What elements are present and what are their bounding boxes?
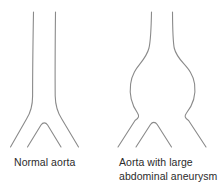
aneurysmal-aorta-caption-line-2: abdominal aneurysm	[119, 170, 218, 182]
panel-aneurysmal-aorta: Aorta with large abdominal aneurysm	[118, 12, 218, 182]
normal-aorta-right-wall	[55, 12, 78, 147]
normal-aorta-caption: Normal aorta	[14, 156, 75, 168]
aneurysmal-aorta-left-wall	[118, 12, 152, 147]
normal-aorta-bifurcation-crotch	[28, 123, 62, 147]
normal-aorta-left-wall	[11, 12, 34, 147]
panel-normal-aorta: Normal aorta	[11, 12, 79, 168]
aneurysmal-aorta-bifurcation-crotch	[136, 122, 172, 147]
aorta-comparison-figure: Normal aorta Aorta with large abdominal …	[0, 0, 224, 191]
aneurysmal-aorta-caption-line-1: Aorta with large	[119, 156, 193, 168]
aneurysmal-aorta-right-wall	[173, 12, 207, 147]
